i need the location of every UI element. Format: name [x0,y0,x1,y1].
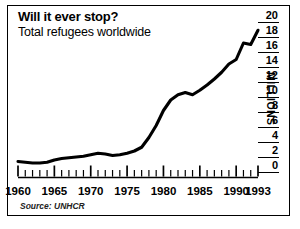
y-tick-rule [258,172,279,173]
data-series-line [18,30,258,163]
y-tick-rule [258,157,279,158]
y-tick-label: 18 [266,25,278,36]
y-tick-label: 16 [266,40,278,51]
y-axis-title: MILLIONS [265,72,277,125]
y-tick-label: 14 [266,55,278,66]
x-tick-label: 1970 [78,185,104,197]
y-tick-rule [258,37,279,38]
y-tick-rule [258,22,279,23]
x-axis-minor-ticks [25,170,250,177]
source-note: Source: UNHCR [20,201,85,211]
x-tick-label: 1980 [151,185,177,197]
x-tick-label: 1985 [187,185,213,197]
y-tick-rule [258,142,279,143]
y-tick-label: 2 [272,145,278,156]
y-tick-rule [258,52,279,53]
y-tick-label: 20 [266,10,278,21]
x-tick-label: 1965 [42,185,68,197]
x-tick-label: 1960 [5,185,31,197]
x-tick-label: 1975 [114,185,140,197]
x-tick-label: 1993 [245,185,271,197]
y-tick-label: 4 [272,130,278,141]
chart-figure: Will it ever stop? Total refugees worldw… [0,0,300,229]
y-tick-rule [258,127,279,128]
y-tick-label: 0 [272,160,278,171]
y-tick-rule [258,67,279,68]
